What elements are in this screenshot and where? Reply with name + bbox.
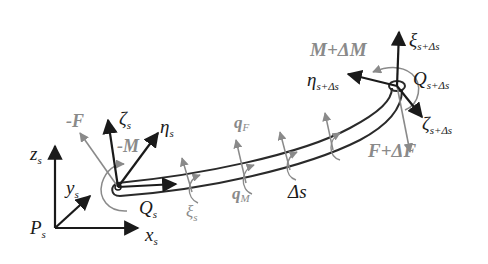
origin-label: Ps xyxy=(29,217,46,240)
end-node: M+ΔM ξs+Δs ηs+Δs Qs+Δs ζs+Δs F+ΔF xyxy=(307,29,452,161)
xi-s-label: ξs xyxy=(186,202,198,223)
neg-force-arrow xyxy=(80,133,118,187)
z-axis-label: zs xyxy=(29,143,42,166)
distributed-force-arrow xyxy=(236,140,246,183)
xi-end-label: ξs+Δs xyxy=(409,29,440,52)
xi-s-tangent-arrow xyxy=(118,184,176,187)
neg-force-label: -F xyxy=(66,111,84,131)
eta-s-label: ηs xyxy=(160,116,174,139)
end-force-label: F+ΔF xyxy=(367,140,416,161)
y-axis-arrow xyxy=(55,196,90,228)
x-axis-label: xs xyxy=(144,224,158,247)
neg-moment-label: -M xyxy=(117,136,140,156)
rod-diagram: zs ys xs Ps -F -M ζs ηs xyxy=(0,0,488,264)
zeta-end-label: ζs+Δs xyxy=(422,113,452,136)
zeta-s-label: ζs xyxy=(119,108,131,131)
segment-length-label: Δs xyxy=(287,181,307,202)
xi-end-arrow xyxy=(397,32,399,86)
rod-body xyxy=(112,81,405,196)
end-moment-label: M+ΔM xyxy=(309,39,368,60)
eta-end-arrow xyxy=(348,74,397,86)
end-node-label: Qs+Δs xyxy=(413,68,449,91)
y-axis-label: ys xyxy=(64,177,79,200)
distributed-moment-label: qM xyxy=(232,184,251,204)
eta-end-label: ηs+Δs xyxy=(307,69,339,92)
start-node: -F -M ζs ηs Qs ξs xyxy=(66,108,198,223)
distributed-force-label: qF xyxy=(234,113,250,133)
start-node-label: Qs xyxy=(139,197,157,220)
rod-lower-edge xyxy=(120,90,402,196)
